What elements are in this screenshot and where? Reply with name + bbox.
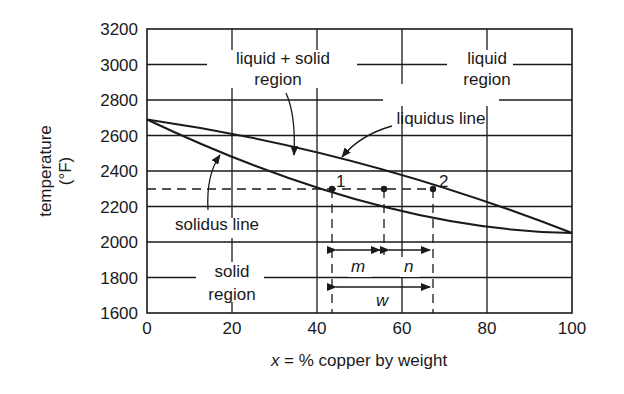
solid-region-label-2: region [208,285,255,304]
svg-text:2800: 2800 [100,91,138,110]
svg-text:1600: 1600 [100,304,138,323]
n-label: n [404,257,413,276]
point-2-label: 2 [439,172,448,191]
liquidus-line-label: liquidus line [397,109,486,128]
solidus-pointer-arrow [208,155,220,210]
svg-text:2600: 2600 [100,127,138,146]
svg-text:60: 60 [393,319,412,338]
svg-text:(°F): (°F) [56,157,75,186]
svg-text:3200: 3200 [100,20,138,39]
point-1 [329,186,335,192]
svg-text:80: 80 [478,319,497,338]
phase-diagram: 1 2 m n w liquid + solid region liquid r… [0,0,624,394]
svg-text:100: 100 [558,319,586,338]
liquid-region-label-2: region [463,70,510,89]
y-axis-ticks: 3200 3000 2800 2600 2400 2200 2000 1800 … [100,20,138,323]
liquid-region-label-1: liquid [467,49,507,68]
x-axis-ticks: 0 20 40 60 80 100 [142,319,586,338]
svg-text:20: 20 [223,319,242,338]
point-2 [430,186,436,192]
svg-text:0: 0 [142,319,151,338]
liquidus-pointer-arrow [342,126,392,157]
svg-text:3000: 3000 [100,56,138,75]
point-1-label: 1 [336,172,345,191]
svg-text:2400: 2400 [100,162,138,181]
liquid-solid-region-label-1: liquid + solid [236,49,330,68]
svg-text:temperature: temperature [36,125,55,217]
x-axis-label: x = % copper by weight [270,351,448,370]
svg-text:2200: 2200 [100,198,138,217]
m-label: m [351,257,365,276]
svg-text:2000: 2000 [100,233,138,252]
svg-text:1800: 1800 [100,269,138,288]
solidus-line-label: solidus line [175,215,259,234]
w-label: w [376,291,390,310]
y-axis-label: temperature (°F) [36,125,75,217]
svg-text:40: 40 [308,319,327,338]
solid-region-label-1: solid [215,262,250,281]
liquid-solid-region-label-2: region [254,70,301,89]
point-mid [381,186,387,192]
